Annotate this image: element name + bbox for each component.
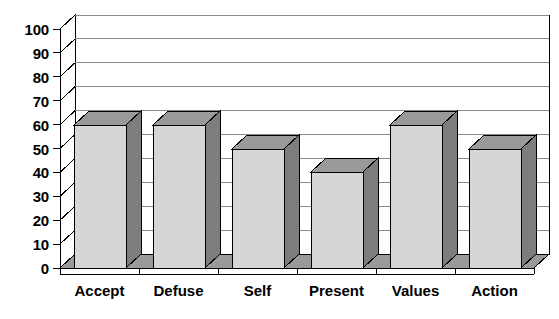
- x-axis-tick-label-action: Action: [471, 283, 518, 298]
- x-axis-tick-label-self: Self: [244, 283, 272, 298]
- chart-figure: 1009080706050403020100 AcceptDefuseSelfP…: [0, 0, 559, 319]
- x-axis-tick-label-defuse: Defuse: [153, 283, 203, 298]
- x-axis-tick-label-values: Values: [392, 283, 440, 298]
- x-axis-tick-label-present: Present: [309, 283, 364, 298]
- x-axis-tick-label-accept: Accept: [74, 283, 124, 298]
- x-axis-tick-labels: AcceptDefuseSelfPresentValuesAction: [0, 0, 559, 319]
